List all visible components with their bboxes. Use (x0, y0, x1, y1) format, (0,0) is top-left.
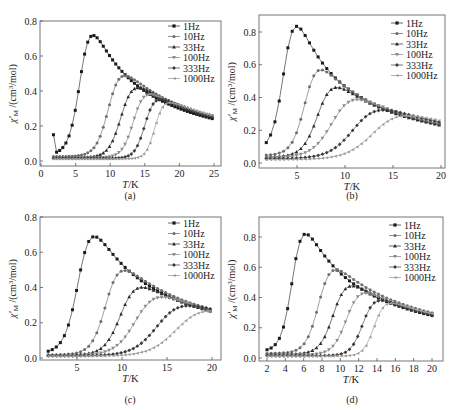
data-point-marker (172, 24, 175, 27)
series-line-10Hz (48, 270, 210, 354)
data-point-marker (339, 331, 343, 334)
data-point-marker (338, 154, 341, 157)
data-point-marker (52, 133, 55, 136)
data-point-marker (273, 120, 276, 123)
y-axis-label: χ′M /(cm3/mol) (7, 259, 20, 319)
data-point-marker (331, 314, 335, 317)
data-point-marker (364, 314, 368, 318)
x-tick-label: 8 (320, 363, 325, 374)
data-point-marker (112, 281, 115, 284)
data-point-marker (348, 279, 351, 282)
data-point-marker (338, 81, 341, 84)
x-tick-label: 20 (436, 170, 446, 181)
data-point-marker (317, 55, 320, 58)
data-point-marker (107, 248, 110, 251)
data-point-marker (116, 258, 119, 261)
data-point-marker (75, 289, 78, 292)
data-point-marker (321, 157, 324, 160)
series-line-10Hz (54, 76, 213, 157)
data-point-marker (325, 151, 329, 155)
panel-caption: (c) (124, 394, 135, 406)
data-point-marker (197, 312, 200, 315)
legend-label: 1000Hz (404, 272, 436, 283)
data-point-marker (317, 69, 320, 72)
legend-label: 1Hz (406, 18, 423, 29)
data-point-marker (136, 352, 139, 355)
data-point-marker (68, 134, 71, 137)
data-point-marker (323, 255, 326, 258)
data-point-marker (327, 325, 331, 328)
y-tick-label: 0.8 (25, 16, 38, 27)
x-tick-label: 15 (140, 168, 150, 179)
data-point-marker (360, 324, 364, 328)
data-point-marker (108, 54, 111, 57)
data-point-marker (265, 141, 268, 144)
legend-label: 333Hz (406, 60, 433, 71)
data-point-marker (79, 268, 82, 271)
data-point-marker (327, 260, 330, 263)
data-point-marker (140, 351, 143, 354)
legend-label: 100Hz (183, 52, 210, 63)
data-point-marker (144, 280, 147, 283)
data-point-marker (325, 67, 328, 70)
data-point-marker (325, 156, 328, 159)
y-tick-label: 0.8 (25, 212, 38, 223)
data-point-marker (286, 307, 289, 310)
legend-label: 1Hz (183, 21, 200, 32)
legend-label: 1Hz (404, 220, 421, 231)
data-point-marker (393, 265, 397, 269)
data-point-marker (133, 117, 137, 120)
data-point-marker (127, 348, 131, 352)
legend-label: 33Hz (406, 39, 428, 50)
data-point-marker (112, 253, 115, 256)
data-point-marker (111, 139, 115, 142)
data-point-marker (105, 115, 108, 118)
data-point-marker (319, 295, 322, 298)
data-point-marker (111, 58, 114, 61)
data-point-marker (99, 40, 102, 43)
data-point-marker (120, 112, 124, 115)
data-point-marker (299, 240, 302, 243)
data-point-marker (352, 278, 355, 281)
data-point-marker (148, 348, 151, 351)
data-point-marker (130, 157, 133, 160)
data-point-marker (316, 112, 320, 115)
data-point-marker (145, 117, 149, 121)
x-tick-label: 25 (209, 168, 219, 179)
legend-label: 10Hz (406, 28, 428, 39)
data-point-marker (133, 82, 136, 85)
y-tick-label: 0.0 (25, 353, 38, 364)
data-point-marker (316, 153, 320, 157)
data-point-marker (115, 322, 119, 325)
data-point-marker (156, 344, 159, 347)
data-point-marker (356, 352, 359, 355)
data-point-marker (148, 108, 152, 112)
data-point-marker (99, 239, 102, 242)
y-tick-label: 0.2 (25, 317, 38, 328)
data-point-marker (123, 103, 127, 106)
data-point-marker (295, 131, 298, 134)
data-point-marker (327, 348, 331, 351)
data-point-marker (103, 243, 106, 246)
data-point-marker (291, 141, 294, 144)
chart-panel-b: 0.00.20.40.60.85101520T/Kχ′M /(cm3/mol)(… (226, 15, 446, 202)
data-point-marker (312, 124, 316, 127)
x-tick-label: 10 (117, 362, 127, 373)
legend-label: 333Hz (183, 63, 210, 74)
data-point-marker (139, 155, 142, 158)
data-point-marker (282, 326, 285, 329)
data-point-marker (336, 268, 339, 271)
y-axis-label: χ′M /(cm3/mol) (226, 62, 239, 122)
y-tick-label: 0.0 (25, 156, 38, 167)
data-point-marker (111, 92, 114, 95)
data-point-marker (356, 335, 360, 339)
series-markers-33Hz (264, 86, 440, 159)
data-point-marker (352, 353, 355, 356)
chart-panel-d: 0.00.20.40.60.82468101214161820T/Kχ′M /(… (226, 217, 443, 406)
data-point-marker (161, 106, 164, 109)
data-point-marker (86, 41, 89, 44)
data-point-marker (47, 350, 50, 353)
y-tick-label: 0.4 (244, 292, 257, 303)
data-point-marker (311, 349, 315, 352)
data-point-marker (348, 310, 352, 313)
